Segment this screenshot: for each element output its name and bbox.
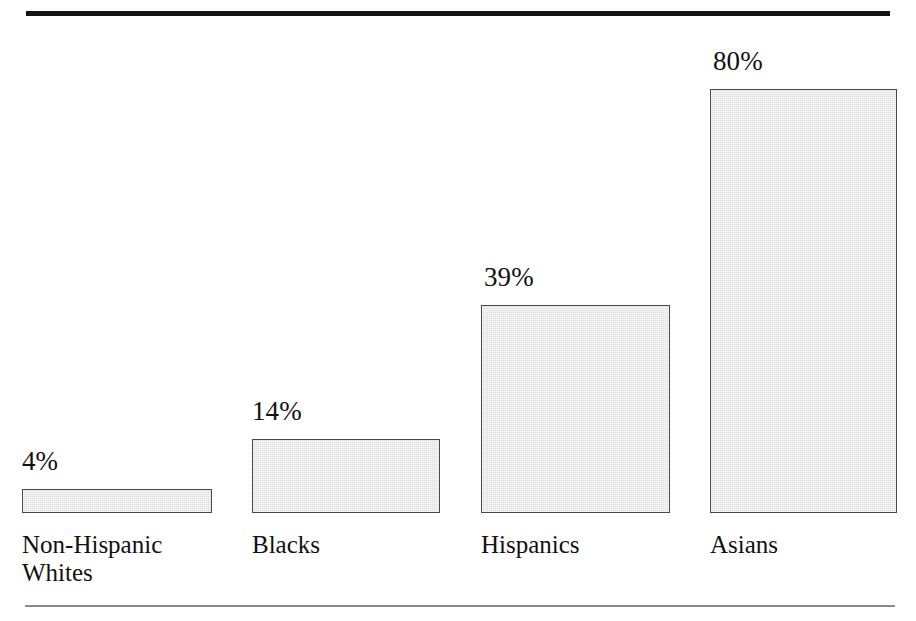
category-label-hispanics: Hispanics — [481, 531, 701, 559]
bar-hispanics — [481, 305, 670, 513]
bar-asians — [710, 89, 897, 513]
value-label-asians: 80% — [713, 48, 763, 75]
bottom-rule-divider — [25, 605, 895, 607]
category-label-non-hispanic-whites: Non-Hispanic Whites — [22, 531, 242, 587]
value-label-non-hispanic-whites: 4% — [22, 448, 58, 475]
chart-figure: 4% Non-Hispanic Whites 14% Blacks 39% Hi… — [0, 0, 916, 621]
category-label-asians: Asians — [710, 531, 910, 559]
category-label-blacks: Blacks — [252, 531, 472, 559]
value-label-hispanics: 39% — [484, 264, 534, 291]
bar-blacks — [252, 439, 440, 513]
plot-area: 4% Non-Hispanic Whites 14% Blacks 39% Hi… — [0, 0, 916, 621]
value-label-blacks: 14% — [252, 398, 302, 425]
bar-non-hispanic-whites — [22, 489, 212, 513]
